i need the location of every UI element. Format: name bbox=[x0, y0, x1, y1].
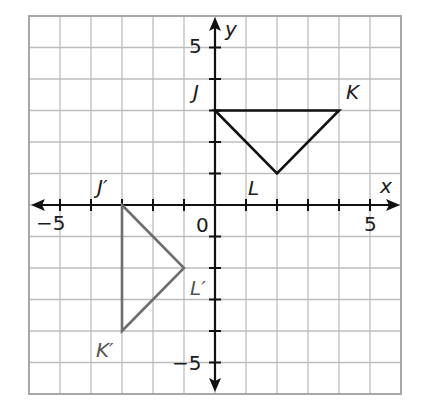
vertex-label-k-prime: K′ bbox=[96, 338, 114, 362]
x-tick-label-5: 5 bbox=[364, 212, 377, 236]
y-tick-label-5: 5 bbox=[189, 34, 202, 58]
y-axis-label: y bbox=[224, 17, 238, 41]
vertex-label-k: K bbox=[346, 80, 361, 104]
axes bbox=[31, 17, 400, 392]
coordinate-plane: y x −5 5 5 −5 0 J K L J′ K′ L′ bbox=[0, 0, 422, 407]
x-tick-label-neg5: −5 bbox=[36, 211, 65, 235]
y-tick-label-neg5: −5 bbox=[172, 351, 201, 375]
x-axis-label: x bbox=[379, 174, 392, 198]
origin-label: 0 bbox=[196, 213, 209, 237]
vertex-label-l-prime: L′ bbox=[190, 276, 206, 300]
vertex-label-j-prime: J′ bbox=[93, 175, 108, 199]
vertex-label-l: L bbox=[248, 176, 259, 200]
vertex-label-j: J bbox=[189, 80, 199, 104]
